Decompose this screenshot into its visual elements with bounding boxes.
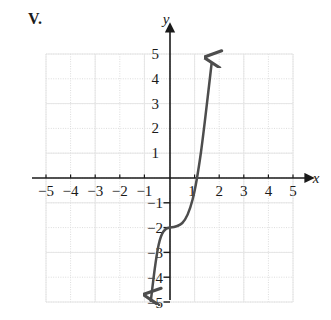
- y-tick-label: −2: [147, 220, 163, 236]
- x-tick-label: −2: [112, 183, 128, 199]
- x-axis-label: x: [312, 170, 320, 186]
- x-tick-label: 3: [240, 183, 248, 199]
- x-tick-labels: −5 −4 −3 −2 −1 1 2 3 4 5: [38, 183, 297, 199]
- x-tick-label: 2: [215, 183, 223, 199]
- coordinate-plane: −5 −4 −3 −2 −1 1 2 3 4 5 5 4 3 2 1 −1 −2…: [0, 0, 331, 320]
- x-tick-label: −3: [87, 183, 103, 199]
- y-tick-label: 2: [152, 120, 160, 136]
- x-tick-label: 5: [289, 183, 297, 199]
- axes: [32, 31, 306, 300]
- y-tick-label: −5: [147, 295, 163, 311]
- x-tick-label: −4: [63, 183, 79, 199]
- y-axis-label: y: [161, 11, 170, 27]
- y-tick-label: 3: [152, 96, 160, 112]
- y-tick-label: −1: [147, 195, 163, 211]
- x-tick-label: −5: [38, 183, 54, 199]
- y-tick-label: 5: [152, 46, 160, 62]
- x-tick-label: 4: [265, 183, 273, 199]
- cubic-curve: [151, 64, 212, 301]
- figure-panel: V.: [0, 0, 331, 320]
- y-tick-marks: [164, 203, 171, 302]
- y-tick-label: 4: [152, 71, 160, 87]
- y-tick-label: 1: [152, 145, 160, 161]
